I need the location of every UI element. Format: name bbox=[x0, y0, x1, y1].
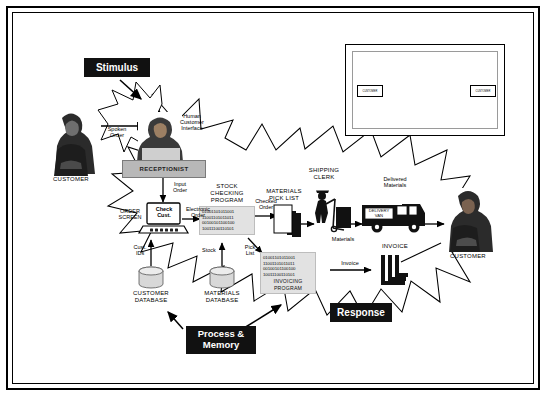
materials-pick-list-label: MATERIALS PICK LIST bbox=[259, 188, 309, 202]
invoicing-program-box: 01001101011001 11001101011011 0010010110… bbox=[260, 252, 316, 294]
delivered-materials-label: Delivered Materials bbox=[370, 177, 420, 189]
materials-label: Materials bbox=[325, 237, 361, 243]
stimulus-label: Stimulus bbox=[96, 62, 138, 74]
inset-entity-source: CUSTOMER bbox=[357, 85, 383, 97]
materials-database-label: MATERIALS DATABASE bbox=[195, 290, 249, 304]
spoken-order-label: Spoken Order bbox=[100, 127, 134, 139]
customer-left-label: CUSTOMER bbox=[48, 176, 94, 182]
inset-entity-sink: CUSTOMER bbox=[470, 85, 496, 97]
stock-checking-program-label: STOCK CHECKING PROGRAM bbox=[199, 183, 255, 204]
customer-left-photo bbox=[48, 112, 95, 176]
reception-desk: RECEPTIONIST bbox=[122, 160, 206, 178]
process-memory-callout: Process & Memory bbox=[186, 326, 256, 354]
customer-right-label: CUSTOMER bbox=[444, 253, 492, 259]
response-callout: Response bbox=[330, 303, 392, 322]
input-order-label: Input Order bbox=[165, 182, 195, 194]
invoice-flow-label: Invoice bbox=[335, 261, 365, 267]
electronic-order-label: Electronic Order bbox=[180, 207, 216, 219]
receptionist-label: RECEPTIONIST bbox=[139, 166, 188, 172]
shipping-clerk-icon bbox=[315, 191, 351, 232]
stimulus-callout: Stimulus bbox=[84, 58, 150, 77]
invoicing-program-label: INVOICING PROGRAM bbox=[263, 278, 313, 291]
materials-database-icon bbox=[210, 267, 234, 288]
cust-ids-label: Cust. IDs bbox=[128, 245, 152, 257]
invoice-stack-label: INVOICE bbox=[375, 243, 415, 249]
inset-entity-sink-label: CUSTOMER bbox=[476, 90, 491, 93]
diagram-canvas: Stimulus Process & Memory Response RECEP… bbox=[0, 0, 548, 398]
shipping-clerk-label: SHIPPING CLERK bbox=[303, 167, 345, 181]
customer-database-icon bbox=[139, 267, 163, 288]
inset-entity-source-label: CUSTOMER bbox=[363, 90, 378, 93]
invoice-stack-icon bbox=[381, 255, 408, 285]
delivery-van-label: DELIVERY VAN bbox=[366, 208, 392, 218]
customer-database-label: CUSTOMER DATABASE bbox=[124, 290, 178, 304]
process-memory-label: Process & Memory bbox=[198, 329, 244, 351]
customer-right-photo bbox=[446, 188, 493, 252]
response-label: Response bbox=[337, 307, 385, 319]
code-line: 10011100110101 bbox=[263, 272, 313, 278]
code-line: 10011100110101 bbox=[202, 226, 252, 232]
order-screen-label: ORDER SCREEN bbox=[113, 209, 147, 221]
pick-list-label: Pick List bbox=[238, 245, 262, 257]
check-cust-label: Check Cust. bbox=[148, 207, 180, 219]
stock-label: Stock bbox=[197, 248, 221, 254]
human-customer-interface-label: Human Customer Interface bbox=[172, 114, 212, 131]
